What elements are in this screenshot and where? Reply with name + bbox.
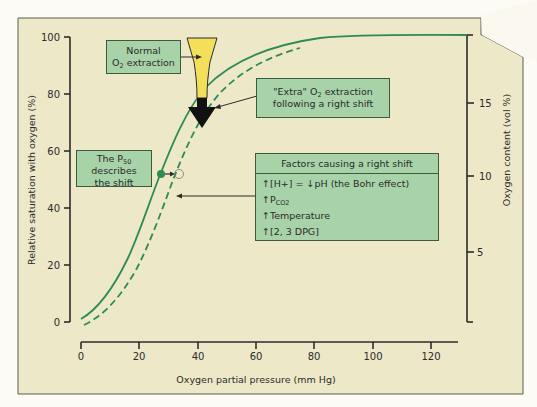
x-tick-0: 0 [78, 351, 84, 362]
y-axis-title: Relative saturation with oxygen (%) [26, 95, 37, 265]
right-shift-factors-box: Factors causing a right shift ↑[H+] = ↓p… [255, 153, 439, 241]
x-tick-40: 40 [192, 351, 205, 362]
normal-extraction-funnel [187, 38, 217, 98]
y-tick-100: 100 [41, 32, 60, 43]
x-axis-title: Oxygen partial pressure (mm Hg) [176, 374, 335, 385]
y-tick-40: 40 [47, 203, 60, 214]
factor-temperature: ↑Temperature [256, 208, 438, 224]
x-axis: 0 20 40 60 80 100 120 Oxygen partial pre… [78, 342, 458, 385]
factor-bohr: ↑[H+] = ↓pH (the Bohr effect) [256, 176, 438, 192]
extraction-funnel [187, 38, 217, 128]
y-axis: 100 80 60 40 20 0 Relative saturation wi… [26, 32, 70, 328]
x-tick-60: 60 [250, 351, 263, 362]
y-tick-0: 0 [54, 317, 60, 328]
factor-2-3-dpg: ↑[2, 3 DPG] [256, 224, 438, 240]
p50-normal-marker [157, 170, 165, 178]
x-tick-80: 80 [308, 351, 321, 362]
extra-extraction-leader [218, 96, 257, 107]
normal-extraction-label: Normal O2 extraction [106, 40, 181, 74]
y-tick-20: 20 [47, 260, 60, 271]
p50-label: The P50 describes the shift [76, 150, 152, 187]
y-tick-60: 60 [47, 146, 60, 157]
x-tick-120: 120 [421, 351, 440, 362]
extra-extraction-label: "Extra" O2 extraction following a right … [256, 78, 390, 118]
y2-tick-10: 10 [479, 171, 492, 182]
y2-tick-15: 15 [479, 98, 492, 109]
y2-axis: 15 10 5 Oxygen content (vol %) [467, 35, 512, 322]
y-tick-80: 80 [47, 89, 60, 100]
x-tick-20: 20 [133, 351, 146, 362]
extra-extraction-arrowhead [188, 98, 216, 128]
x-tick-100: 100 [363, 351, 382, 362]
y2-axis-title: Oxygen content (vol %) [501, 94, 512, 207]
factor-pco2: ↑PCO2 [256, 192, 438, 208]
factors-heading: Factors causing a right shift [256, 154, 438, 174]
y2-tick-5: 5 [477, 247, 483, 258]
